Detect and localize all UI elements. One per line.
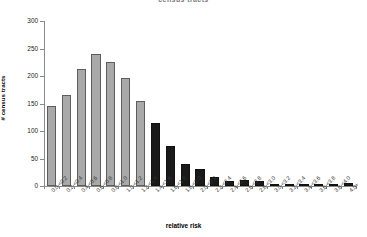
bar	[121, 78, 130, 186]
x-tick	[44, 186, 45, 189]
y-tick-label: 150	[27, 101, 38, 107]
bar	[62, 95, 71, 186]
chart-title: census tracts	[0, 0, 367, 3]
y-tick-label: 50	[31, 156, 38, 162]
bar	[91, 54, 100, 186]
histogram-chart: census tracts # census tracts 0501001502…	[0, 0, 367, 237]
bar	[136, 101, 145, 186]
bar	[106, 62, 115, 186]
y-tick-label: 300	[27, 18, 38, 24]
y-tick-label: 0	[34, 183, 38, 189]
x-axis-title: relative risk	[0, 222, 367, 229]
y-tick-label: 100	[27, 128, 38, 134]
y-axis-title: # census tracts	[0, 75, 6, 120]
bar	[77, 69, 86, 186]
y-tick-label: 200	[27, 73, 38, 79]
plot-area	[44, 21, 356, 186]
bar	[47, 106, 56, 186]
y-tick-label: 250	[27, 46, 38, 52]
